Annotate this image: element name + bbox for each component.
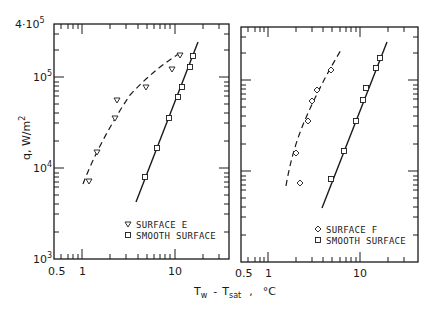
left-x-tick-10: 10 — [168, 265, 182, 278]
left-smooth-markers — [143, 54, 196, 180]
y-axis-title: q, W/m2 — [18, 116, 33, 160]
triangle-down-icon — [125, 222, 131, 227]
surface-f-markers — [293, 67, 334, 186]
left-legend — [125, 222, 131, 238]
y-axis-labels: 4·105 105 104 103 q, W/m2 — [15, 16, 52, 266]
square-icon — [126, 233, 131, 238]
legend-surface-e: SURFACE E — [136, 220, 187, 230]
left-y-ticks — [54, 34, 229, 232]
legend-surface-f: SURFACE F — [326, 225, 377, 235]
right-y-ticks — [241, 37, 418, 235]
right-x-tick-1: 1 — [265, 267, 272, 280]
left-x-tick-1: 1 — [79, 265, 86, 278]
right-legend — [315, 226, 321, 243]
y-tick-1e4: 104 — [33, 160, 52, 175]
legend-smooth-left: SMOOTH SURFACE — [136, 231, 216, 241]
y-tick-4e5: 4·105 — [15, 16, 45, 31]
left-x-tick-0.5: 0.5 — [48, 265, 66, 278]
right-x-tick-10: 10 — [353, 267, 367, 280]
square-icon — [316, 238, 321, 243]
diamond-icon — [315, 226, 321, 232]
y-tick-1e5: 105 — [33, 69, 52, 84]
y-tick-1e3: 103 — [33, 251, 52, 266]
x-axis-title: Tw-Tsat,°C — [193, 285, 276, 300]
right-x-tick-0.5: 0.5 — [235, 267, 253, 280]
boiling-curve-chart: 4·105 105 104 103 q, W/m2 — [0, 0, 435, 310]
legend-smooth-right: SMOOTH SURFACE — [326, 236, 406, 246]
x-axis-labels: 0.5 1 10 0.5 1 10 — [48, 265, 367, 280]
